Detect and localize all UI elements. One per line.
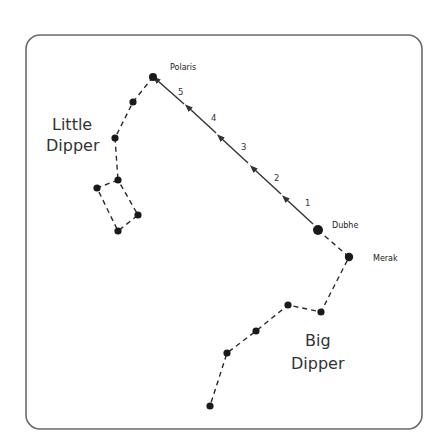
step-label-2: 2 (274, 173, 279, 183)
pointer-arrows (158, 81, 313, 224)
star (111, 134, 118, 141)
label-big-dipper-line2: Dipper (291, 354, 345, 373)
label-little-dipper-line1: Little (52, 115, 92, 134)
star (317, 308, 324, 315)
star (252, 327, 259, 334)
label-merak: Merak (373, 254, 398, 263)
star-dubhe (313, 225, 323, 235)
step-label-4: 4 (211, 113, 216, 123)
step-label-5: 5 (178, 87, 183, 97)
star (129, 98, 136, 105)
label-little-dipper-line2: Dipper (46, 136, 100, 155)
little-dipper-stars (93, 73, 157, 235)
star-merak (345, 253, 353, 261)
star (223, 349, 230, 356)
star (93, 184, 100, 191)
label-polaris: Polaris (170, 63, 196, 72)
step-label-3: 3 (241, 142, 246, 152)
star-diagram: 1 2 3 4 5 Polaris Dubhe Merak Little Dip… (0, 0, 448, 446)
little-dipper-lines (97, 77, 153, 231)
star (134, 211, 141, 218)
big-dipper-stars (206, 225, 353, 410)
label-dubhe: Dubhe (332, 221, 358, 230)
pointer-step-labels: 1 2 3 4 5 (178, 87, 310, 208)
step-label-1: 1 (305, 198, 310, 208)
big-dipper-lines (210, 230, 349, 406)
label-big-dipper-line1: Big (305, 331, 331, 350)
star (114, 176, 121, 183)
star (114, 227, 121, 234)
star (284, 301, 291, 308)
star-polaris (149, 73, 157, 81)
diagram-frame (26, 35, 422, 429)
star (206, 402, 213, 409)
